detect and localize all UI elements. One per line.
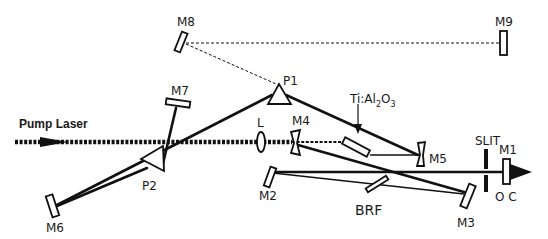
label-p1: P1 bbox=[283, 74, 298, 88]
beam-m6-p1 bbox=[57, 95, 272, 205]
label-m8: M8 bbox=[177, 15, 195, 29]
output-arrow-icon bbox=[510, 164, 532, 180]
pump-arrow-icon bbox=[40, 137, 68, 147]
label-m3: M3 bbox=[457, 216, 475, 230]
label-p2: P2 bbox=[142, 179, 157, 193]
lens-l bbox=[257, 132, 265, 152]
beam-m6-p2 bbox=[57, 168, 147, 206]
crystal-ti-sapphire bbox=[342, 137, 370, 156]
crystal-label-main: Ti:Al bbox=[349, 92, 376, 106]
slit-lower bbox=[484, 175, 488, 192]
label-m9: M9 bbox=[495, 15, 513, 29]
alignment-path-m8-p1 bbox=[186, 44, 276, 84]
crystal-label-sub2: 3 bbox=[390, 100, 395, 109]
label-m6: M6 bbox=[46, 221, 64, 235]
mirror-m1-output-coupler bbox=[503, 159, 510, 184]
label-oc: O C bbox=[495, 190, 517, 204]
mirror-m3 bbox=[460, 184, 475, 209]
mirror-m9 bbox=[500, 31, 507, 55]
label-crystal: Ti:Al2O3 bbox=[349, 92, 396, 109]
slit-upper bbox=[484, 149, 488, 169]
label-m2: M2 bbox=[259, 189, 277, 203]
crystal-label-o: O bbox=[381, 92, 390, 106]
label-m7: M7 bbox=[171, 84, 189, 98]
laser-cavity-diagram: Pump Laser M8 M9 M7 P1 P2 M6 L M4 Ti:Al2… bbox=[0, 0, 548, 239]
prism-p2 bbox=[141, 146, 164, 171]
label-m5: M5 bbox=[429, 152, 447, 166]
label-brf: BRF bbox=[355, 202, 382, 218]
mirror-m2 bbox=[264, 167, 276, 188]
mirror-m8 bbox=[174, 32, 187, 53]
mirror-m7 bbox=[166, 98, 191, 107]
label-m1: M1 bbox=[499, 143, 517, 157]
label-slit: SLIT bbox=[475, 134, 501, 148]
label-lens: L bbox=[257, 116, 264, 130]
label-m4: M4 bbox=[292, 114, 310, 128]
label-pump-laser: Pump Laser bbox=[19, 117, 88, 131]
